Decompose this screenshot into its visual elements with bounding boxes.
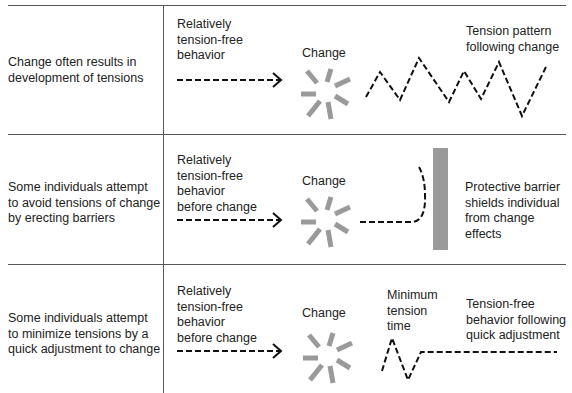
row-1-tension-zigzag — [366, 58, 546, 116]
row-1-change-starburst-icon — [301, 69, 350, 119]
row-3-dashed-arrow — [177, 344, 281, 358]
row-1-dashed-arrow — [177, 73, 281, 87]
protective-barrier — [433, 148, 448, 250]
row-2-deflected-path — [360, 167, 425, 222]
row-2-dashed-arrow — [177, 213, 281, 227]
diagram-graphics — [0, 0, 572, 393]
row-3-change-starburst-icon — [303, 333, 352, 383]
row-3-adjustment-line — [382, 338, 557, 380]
row-2-change-starburst-icon — [301, 197, 350, 247]
